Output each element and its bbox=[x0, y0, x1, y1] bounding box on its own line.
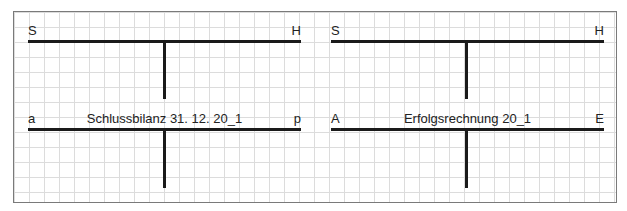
debit-label: S bbox=[28, 24, 37, 38]
t-account-erfolgsrechnung: A Erfolgsrechnung 20_1 E bbox=[331, 112, 604, 190]
passiva-label: p bbox=[294, 112, 301, 126]
t-account-vertical-line bbox=[163, 40, 166, 99]
t-account-top-right: S H bbox=[331, 24, 604, 100]
t-account-top-left: S H bbox=[28, 24, 301, 100]
ertrag-label: E bbox=[595, 112, 604, 126]
t-account-vertical-line bbox=[465, 40, 468, 99]
account-title: Erfolgsrechnung 20_1 bbox=[331, 112, 604, 126]
credit-label: H bbox=[595, 24, 604, 38]
debit-label: S bbox=[331, 24, 340, 38]
credit-label: H bbox=[292, 24, 301, 38]
t-account-vertical-line bbox=[465, 128, 468, 188]
account-title: Schlussbilanz 31. 12. 20_1 bbox=[28, 112, 301, 126]
t-account-vertical-line bbox=[163, 128, 166, 188]
t-account-schlussbilanz: a Schlussbilanz 31. 12. 20_1 p bbox=[28, 112, 301, 190]
